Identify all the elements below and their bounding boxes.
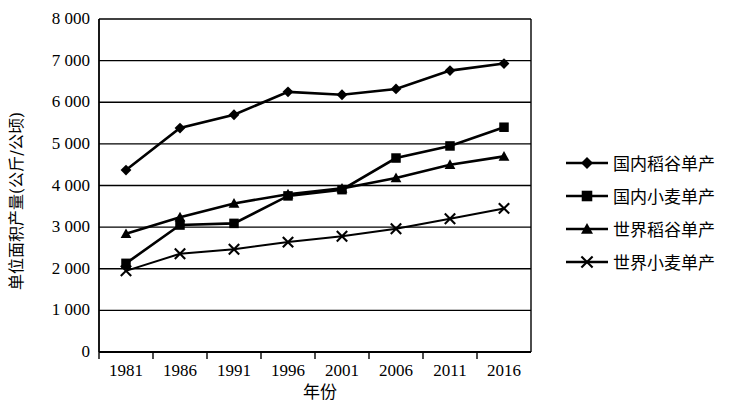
legend-item[interactable]: 国内小麦单产 — [565, 179, 745, 212]
x-axis-tick-label: 1996 — [258, 362, 318, 379]
chart-figure: 单位面积产量(公斤/公顷) 年份 国内稻谷单产国内小麦单产世界稻谷单产世界小麦单… — [0, 0, 745, 406]
y-axis-tick-label: 3 000 — [20, 218, 90, 235]
y-axis-tick-label: 7 000 — [20, 52, 90, 69]
data-point-diamond — [445, 65, 456, 76]
legend-label: 国内小麦单产 — [609, 183, 715, 208]
series-diamond — [121, 58, 510, 175]
data-point-square — [175, 220, 185, 230]
legend-label: 国内稻谷单产 — [609, 150, 715, 175]
data-point-diamond — [581, 157, 593, 169]
legend-marker-triangle-icon — [565, 219, 609, 239]
legend-marker-diamond-icon — [565, 153, 609, 173]
data-point-diamond — [391, 84, 402, 95]
data-point-square — [499, 122, 509, 132]
data-point-square — [391, 153, 401, 163]
data-point-square — [445, 141, 455, 151]
y-axis-tick-label: 4 000 — [20, 177, 90, 194]
data-point-diamond — [229, 109, 240, 120]
legend-marker-x-icon — [565, 252, 609, 272]
legend-item[interactable]: 世界小麦单产 — [565, 245, 745, 278]
series-line — [126, 64, 504, 171]
y-axis-tick-label: 1 000 — [20, 301, 90, 318]
y-axis-tick-label: 8 000 — [20, 10, 90, 27]
data-point-diamond — [283, 86, 294, 97]
data-point-square — [229, 219, 239, 229]
chart-legend: 国内稻谷单产国内小麦单产世界稻谷单产世界小麦单产 — [565, 146, 745, 278]
legend-label: 世界小麦单产 — [609, 249, 715, 274]
y-axis-tick-label: 0 — [20, 343, 90, 360]
x-axis-label: 年份 — [270, 378, 370, 403]
x-axis-tick-label: 2011 — [420, 362, 480, 379]
x-axis-tick-label: 1986 — [150, 362, 210, 379]
legend-label: 世界稻谷单产 — [609, 216, 715, 241]
x-axis-tick-label: 2001 — [312, 362, 372, 379]
x-axis-tick-label: 2006 — [366, 362, 426, 379]
y-axis-tick-label: 5 000 — [20, 135, 90, 152]
data-point-diamond — [337, 89, 348, 100]
x-axis-tick-label: 2016 — [474, 362, 534, 379]
legend-item[interactable]: 国内稻谷单产 — [565, 146, 745, 179]
y-axis-tick-label: 6 000 — [20, 93, 90, 110]
y-axis-tick-label: 2 000 — [20, 260, 90, 277]
legend-item[interactable]: 世界稻谷单产 — [565, 212, 745, 245]
data-point-diamond — [499, 58, 510, 69]
data-point-square — [582, 190, 593, 201]
x-axis-tick-label: 1981 — [96, 362, 156, 379]
x-axis-tick-label: 1991 — [204, 362, 264, 379]
legend-marker-square-icon — [565, 186, 609, 206]
